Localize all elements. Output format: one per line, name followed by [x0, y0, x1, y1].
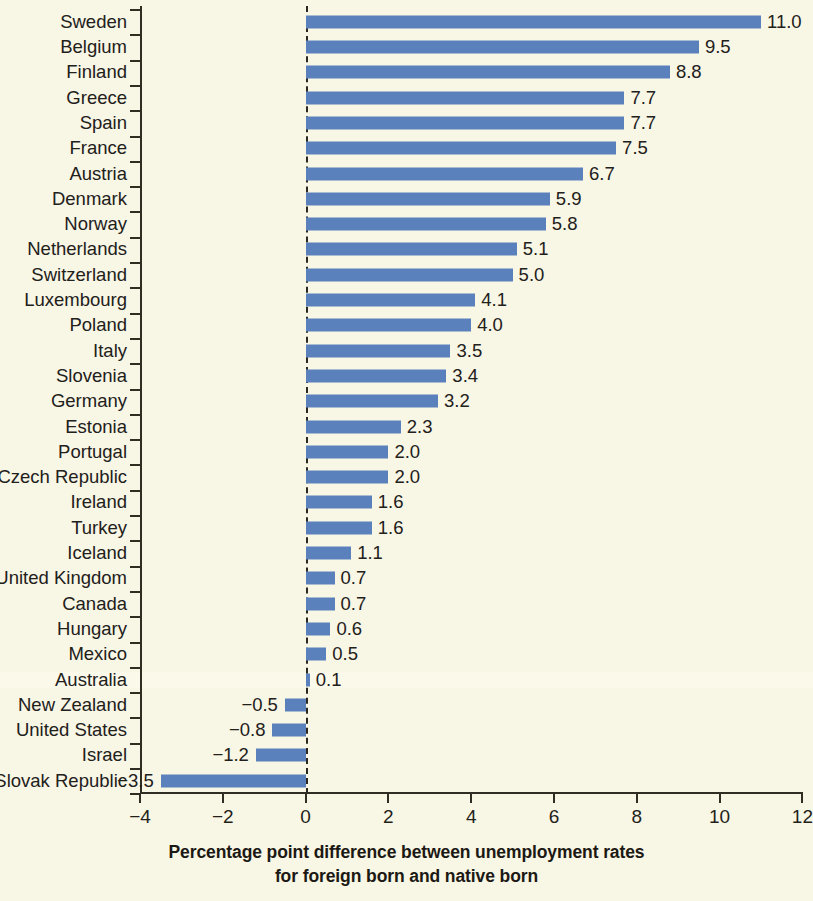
x-axis-tick [222, 793, 224, 803]
y-axis-tick [130, 161, 141, 163]
category-label: Hungary [57, 620, 127, 639]
chart-row: Estonia2.3 [0, 414, 813, 440]
y-axis-tick [130, 768, 141, 770]
bar [306, 547, 352, 560]
bar-value-label: 0.7 [341, 569, 367, 588]
y-axis-tick [130, 338, 141, 340]
category-label: United Kingdom [0, 569, 127, 588]
bar-value-label: 5.1 [523, 240, 549, 259]
bar [161, 774, 306, 787]
bar [306, 319, 472, 332]
bar-value-label: 0.1 [316, 670, 342, 689]
chart-row: Finland8.8 [0, 60, 813, 86]
bar [306, 294, 476, 307]
y-axis-tick [130, 313, 141, 315]
plot-area: −4−2024681012Sweden11.0Belgium9.5Finland… [0, 0, 813, 901]
category-label: Ireland [70, 493, 127, 512]
x-axis-tick [719, 793, 721, 803]
y-axis-tick [130, 642, 141, 644]
bar [306, 395, 438, 408]
x-axis-caption: Percentage point difference between unem… [0, 840, 813, 888]
bar-value-label: 1.6 [378, 493, 404, 512]
category-label: Israel [82, 746, 127, 765]
bar-value-label: −1.2 [212, 746, 249, 765]
x-axis-tick [801, 793, 803, 803]
caption-line-1: Percentage point difference between unem… [0, 840, 813, 864]
category-label: Sweden [60, 13, 127, 32]
y-axis-tick [130, 464, 141, 466]
bar [306, 521, 372, 534]
category-label: Spain [80, 114, 127, 133]
chart-row: Slovenia3.4 [0, 363, 813, 389]
chart-row: Switzerland5.0 [0, 262, 813, 288]
y-axis-tick [130, 389, 141, 391]
category-label: Turkey [71, 519, 127, 538]
bar [306, 41, 699, 54]
y-axis-tick [130, 717, 141, 719]
bar-value-label: 3.2 [444, 392, 470, 411]
x-axis-tick-label: 12 [772, 806, 813, 828]
bar-value-label: 0.5 [332, 645, 358, 664]
x-axis-tick-label: 6 [524, 806, 584, 828]
chart-row: Greece7.7 [0, 85, 813, 111]
bar [285, 698, 306, 711]
bar-value-label: −3.5 [117, 772, 154, 791]
x-axis-tick-label: 10 [690, 806, 750, 828]
chart-row: Mexico0.5 [0, 642, 813, 668]
y-axis-tick [130, 287, 141, 289]
bar-value-label: −0.8 [229, 721, 266, 740]
category-label: Iceland [67, 544, 127, 563]
bar [306, 445, 389, 458]
bar [306, 622, 331, 635]
y-axis-tick [130, 186, 141, 188]
bar-value-label: 7.7 [630, 114, 656, 133]
y-axis-tick [130, 439, 141, 441]
chart-row: Canada0.7 [0, 591, 813, 617]
bar-value-label: 5.9 [556, 190, 582, 209]
category-label: Italy [93, 341, 127, 360]
y-axis-tick [130, 363, 141, 365]
bar-value-label: 8.8 [676, 63, 702, 82]
bar-value-label: 0.7 [341, 594, 367, 613]
bar [306, 66, 670, 79]
bar-value-label: 1.1 [357, 544, 383, 563]
x-axis-tick-label: −2 [193, 806, 253, 828]
x-axis-tick [387, 793, 389, 803]
y-axis-tick [130, 237, 141, 239]
bar [306, 344, 451, 357]
bar [306, 167, 583, 180]
bar [306, 471, 389, 484]
category-label: Poland [69, 316, 127, 335]
bar [306, 91, 625, 104]
y-axis-tick [130, 262, 141, 264]
chart-row: Spain7.7 [0, 110, 813, 136]
chart-row: Turkey1.6 [0, 515, 813, 541]
chart-row: Austria6.7 [0, 161, 813, 187]
bar [306, 572, 335, 585]
bar [306, 673, 310, 686]
bar [306, 142, 617, 155]
chart-row: Czech Republic2.0 [0, 464, 813, 490]
y-axis-tick [130, 743, 141, 745]
y-axis-tick [130, 34, 141, 36]
y-axis-tick [130, 515, 141, 517]
bar [306, 597, 335, 610]
bar-value-label: −0.5 [241, 696, 278, 715]
chart-row: Portugal2.0 [0, 439, 813, 465]
chart-row: Denmark5.9 [0, 186, 813, 212]
bar [256, 749, 306, 762]
y-axis-tick [130, 692, 141, 694]
category-label: Canada [62, 594, 127, 613]
x-axis-tick-label: 8 [607, 806, 667, 828]
category-label: Germany [51, 392, 127, 411]
caption-line-2: for foreign born and native born [0, 864, 813, 888]
chart-row: Hungary0.6 [0, 616, 813, 642]
y-axis-tick [130, 591, 141, 593]
bar-value-label: 6.7 [589, 164, 615, 183]
x-axis-tick [636, 793, 638, 803]
category-label: Switzerland [31, 266, 127, 285]
bar-value-label: 2.0 [394, 468, 420, 487]
category-label: Greece [66, 88, 127, 107]
category-label: Slovak Republic [0, 772, 127, 791]
y-axis-tick [130, 566, 141, 568]
